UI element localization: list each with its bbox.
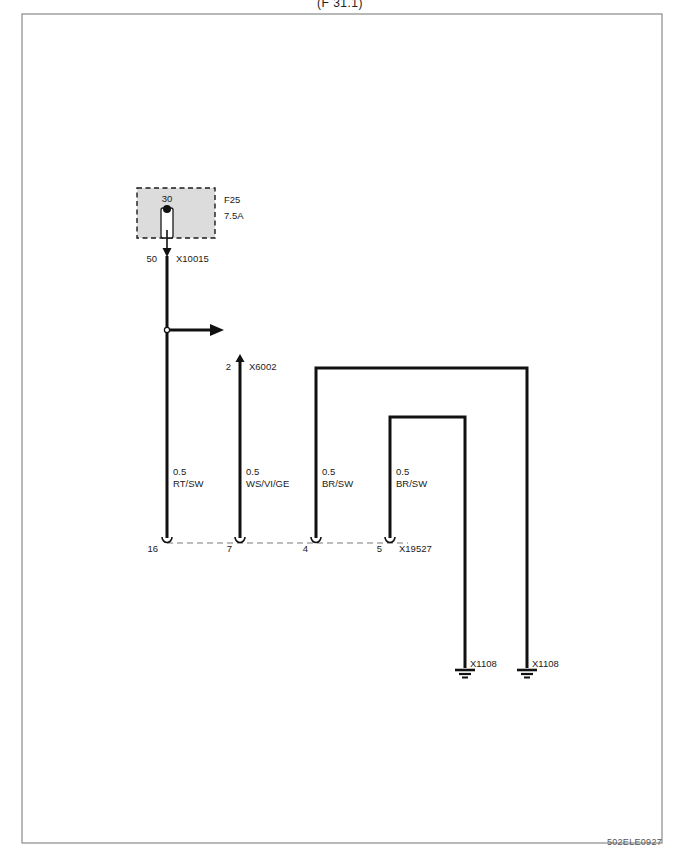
fuse-name-label: F25 <box>224 194 240 205</box>
connector-x19527-label: X19527 <box>399 543 432 554</box>
fuse-output-arrowhead <box>163 248 172 257</box>
x6002-connector-label: X6002 <box>249 361 276 372</box>
page-frame <box>22 14 662 843</box>
junction-dot <box>164 327 169 332</box>
fuse-terminal-dot <box>163 205 171 213</box>
pin-label-16: 16 <box>147 543 158 554</box>
wire-ws-vi-ge-gauge: 0.5 <box>246 466 259 477</box>
fuse-block-box <box>137 188 215 238</box>
pin-label-5: 5 <box>377 543 382 554</box>
wire-br-sw-1-gauge: 0.5 <box>322 466 335 477</box>
wire-br-sw-1-path <box>316 368 527 668</box>
wire-rt-sw-gauge: 0.5 <box>173 466 186 477</box>
ground-left-label: X1108 <box>470 658 497 669</box>
wire-br-sw-2-colors: BR/SW <box>396 478 427 489</box>
x6002-pin-label: 2 <box>226 361 231 372</box>
wire-br-sw-2-gauge: 0.5 <box>396 466 409 477</box>
pin-label-7: 7 <box>227 543 232 554</box>
wire-br-sw-1-colors: BR/SW <box>322 478 353 489</box>
ground-right-label: X1108 <box>532 658 559 669</box>
fuse-rating-label: 7.5A <box>224 210 244 221</box>
pin-label-4: 4 <box>303 543 308 554</box>
junction-arrowhead-icon <box>210 324 224 336</box>
fuse-output-pin-label: 50 <box>146 253 157 264</box>
fuse-top-pin-label: 30 <box>162 193 173 204</box>
fuse-output-connector-label: X10015 <box>176 253 209 264</box>
wiring-diagram-canvas: 30 F25 7.5A 50 X10015 2 X6002 0.5 RT/SW … <box>0 0 680 857</box>
drawing-number-footer: 502ELE0927 <box>607 837 662 847</box>
wire-rt-sw-colors: RT/SW <box>173 478 203 489</box>
wire-ws-vi-ge-colors: WS/VI/GE <box>246 478 289 489</box>
wiring-diagram-page: (F 31.1) <box>0 0 680 857</box>
